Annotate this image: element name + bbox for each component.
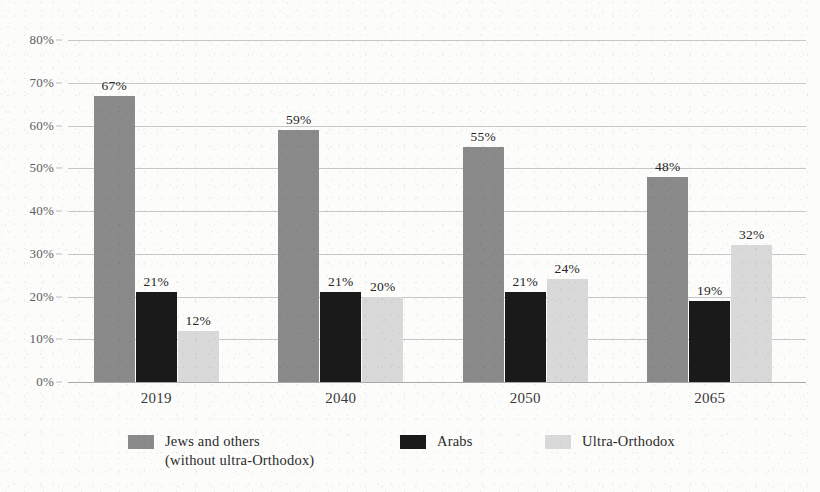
y-axis-tick-mark — [56, 382, 62, 383]
bar-value-label: 48% — [655, 159, 680, 175]
legend-label: Ultra-Orthodox — [582, 432, 675, 451]
y-axis-tick-mark — [56, 125, 62, 126]
chart-legend: Jews and others(without ultra-Orthodox)A… — [0, 432, 820, 488]
bar-group: 55%21%24% — [437, 40, 622, 382]
y-axis-tick-label: 10% — [30, 331, 54, 347]
x-axis-tick-label: 2040 — [325, 390, 356, 407]
bar: 20% — [362, 297, 403, 383]
bar: 59% — [278, 130, 319, 382]
bar-value-label: 21% — [328, 274, 353, 290]
legend-swatch-icon — [128, 435, 154, 449]
legend-item[interactable]: Arabs — [400, 432, 473, 451]
bar-value-label: 21% — [144, 274, 169, 290]
y-axis-tick-label: 70% — [30, 75, 54, 91]
bar: 21% — [320, 292, 361, 382]
bar-value-label: 32% — [739, 227, 764, 243]
bar: 55% — [463, 147, 504, 382]
bar-value-label: 19% — [697, 283, 722, 299]
legend-swatch-icon — [545, 435, 571, 449]
bar-group: 59%21%20% — [253, 40, 438, 382]
bar: 24% — [547, 279, 588, 382]
x-axis-tick-label: 2050 — [510, 390, 541, 407]
bar-value-label: 20% — [370, 279, 395, 295]
y-axis-tick-label: 30% — [30, 246, 54, 262]
legend-label: Arabs — [437, 432, 473, 451]
legend-item[interactable]: Jews and others(without ultra-Orthodox) — [128, 432, 314, 470]
y-axis-tick-label: 0% — [36, 374, 54, 390]
bar: 21% — [136, 292, 177, 382]
legend-swatch-icon — [400, 435, 426, 449]
bar-group: 67%21%12% — [68, 40, 253, 382]
y-axis-tick-mark — [56, 339, 62, 340]
y-axis-tick-label: 60% — [30, 118, 54, 134]
bar: 21% — [505, 292, 546, 382]
bar: 19% — [689, 301, 730, 382]
y-axis-tick-label: 50% — [30, 160, 54, 176]
bar: 12% — [178, 331, 219, 382]
bar-value-label: 24% — [555, 261, 580, 277]
bar-value-label: 55% — [471, 129, 496, 145]
x-axis-tick-label: 2019 — [141, 390, 172, 407]
bar: 32% — [731, 245, 772, 382]
bar-value-label: 59% — [286, 112, 311, 128]
y-axis-labels: 80%70%60%50%40%30%20%10%0% — [0, 40, 62, 382]
x-axis-tick-label: 2065 — [694, 390, 725, 407]
y-axis-tick-mark — [56, 168, 62, 169]
axis-baseline — [68, 382, 806, 383]
bar: 67% — [94, 96, 135, 382]
bar-chart: 80%70%60%50%40%30%20%10%0% 67%21%12%59%2… — [0, 0, 820, 492]
y-axis-tick-mark — [56, 211, 62, 212]
y-axis-tick-label: 80% — [30, 32, 54, 48]
bar-value-label: 21% — [513, 274, 538, 290]
legend-item[interactable]: Ultra-Orthodox — [545, 432, 675, 451]
bar-group: 48%19%32% — [622, 40, 807, 382]
bar-value-label: 12% — [186, 313, 211, 329]
bar-value-label: 67% — [102, 78, 127, 94]
y-axis-tick-mark — [56, 296, 62, 297]
cropped-title-remnant — [0, 0, 820, 9]
legend-label: Jews and others(without ultra-Orthodox) — [165, 432, 314, 470]
y-axis-tick-label: 40% — [30, 203, 54, 219]
legend-label-line2: (without ultra-Orthodox) — [165, 451, 314, 470]
y-axis-tick-mark — [56, 253, 62, 254]
bar: 48% — [647, 177, 688, 382]
y-axis-tick-label: 20% — [30, 289, 54, 305]
y-axis-tick-mark — [56, 82, 62, 83]
y-axis-tick-mark — [56, 40, 62, 41]
plot-area: 67%21%12%59%21%20%55%21%24%48%19%32% — [68, 40, 806, 382]
